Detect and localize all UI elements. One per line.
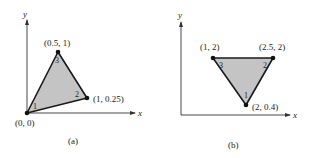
vertex-node-1 xyxy=(25,111,30,116)
diagram-b: y x 1 2 3 (2, 0.4) (2.5, 2) (1, 2) (b) xyxy=(177,10,297,150)
vertex-node-2 xyxy=(271,56,276,61)
node-number-2: 2 xyxy=(75,90,79,99)
diagram-a: y x 1 2 3 (0, 0) (1, 0.25) (0.5, 1) (a) xyxy=(15,9,142,146)
y-axis-label: y xyxy=(22,9,27,19)
coord-label-node-3: (0.5, 1) xyxy=(44,38,70,48)
triangle-elements-figure: y x 1 2 3 (0, 0) (1, 0.25) (0.5, 1) (a) … xyxy=(0,0,314,158)
coord-label-node-1: (2, 0.4) xyxy=(252,102,278,112)
vertex-node-3 xyxy=(56,50,61,55)
caption-a: (a) xyxy=(68,136,78,146)
coord-label-node-1: (0, 0) xyxy=(15,118,35,128)
caption-b: (b) xyxy=(228,140,239,150)
x-axis-label: x xyxy=(292,110,297,120)
node-number-3: 3 xyxy=(55,56,59,65)
coord-label-node-2: (2.5, 2) xyxy=(259,42,285,52)
vertex-node-2 xyxy=(85,96,90,101)
y-axis-label: y xyxy=(177,10,182,20)
node-number-1: 1 xyxy=(244,91,248,100)
node-number-3: 3 xyxy=(219,61,223,70)
coord-label-node-2: (1, 0.25) xyxy=(93,94,124,104)
vertex-node-1 xyxy=(244,103,249,108)
node-number-1: 1 xyxy=(33,102,37,111)
vertex-node-3 xyxy=(211,56,216,61)
node-number-2: 2 xyxy=(263,61,267,70)
coord-label-node-3: (1, 2) xyxy=(200,42,220,52)
x-axis-label: x xyxy=(137,108,142,118)
